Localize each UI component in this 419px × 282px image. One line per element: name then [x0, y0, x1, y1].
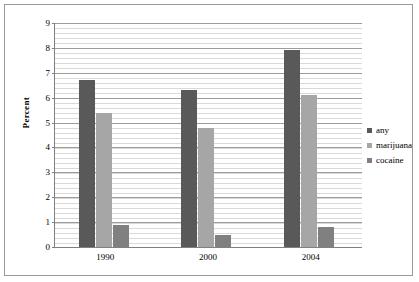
x-tick-label: 2004	[259, 251, 362, 267]
legend-item[interactable]: cocaine	[367, 153, 412, 168]
chart-legend: anymarijuanacocaine	[367, 123, 412, 168]
bar[interactable]	[79, 80, 95, 247]
legend-swatch-icon	[367, 158, 372, 163]
bar-group	[157, 23, 259, 247]
y-tick-label: 5	[46, 118, 51, 127]
y-tick-label: 0	[46, 243, 51, 252]
bar[interactable]	[198, 128, 214, 247]
y-tick-label: 3	[46, 168, 51, 177]
bar[interactable]	[301, 95, 317, 247]
legend-item[interactable]: marijuana	[367, 138, 412, 153]
y-tick-label: 8	[46, 43, 51, 52]
plot-area: 0123456789	[54, 23, 362, 248]
y-tick-label: 9	[46, 19, 51, 28]
y-tick-label: 2	[46, 193, 51, 202]
bar-group	[55, 23, 157, 247]
legend-item[interactable]: any	[367, 123, 412, 138]
bar[interactable]	[113, 225, 129, 247]
legend-label: marijuana	[376, 138, 412, 153]
y-tick-label: 6	[46, 93, 51, 102]
y-tick-label: 1	[46, 218, 51, 227]
chart-frame: Percent 0123456789 199020002004 anymarij…	[4, 4, 413, 276]
bar-groups	[55, 23, 362, 247]
bar[interactable]	[284, 50, 300, 247]
bar[interactable]	[318, 227, 334, 247]
legend-label: cocaine	[376, 153, 403, 168]
legend-swatch-icon	[367, 143, 372, 148]
y-tick-mark	[52, 247, 55, 248]
bar[interactable]	[181, 90, 197, 247]
x-axis-labels: 199020002004	[54, 251, 362, 267]
bar[interactable]	[96, 113, 112, 247]
y-axis-title: Percent	[21, 97, 35, 128]
y-tick-label: 7	[46, 68, 51, 77]
bar[interactable]	[215, 235, 231, 247]
x-tick-label: 1990	[54, 251, 157, 267]
bar-group	[260, 23, 362, 247]
x-tick-label: 2000	[157, 251, 260, 267]
legend-label: any	[376, 123, 389, 138]
legend-swatch-icon	[367, 128, 372, 133]
y-tick-label: 4	[46, 143, 51, 152]
